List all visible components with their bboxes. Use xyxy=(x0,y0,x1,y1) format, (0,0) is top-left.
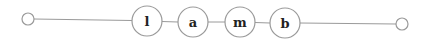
chain-diagram: l a m b xyxy=(0,0,432,41)
node-label: a xyxy=(189,15,198,30)
connector-m-b xyxy=(255,23,270,24)
start-terminal xyxy=(22,13,34,25)
node-b: b xyxy=(270,8,300,38)
connector-b-end xyxy=(300,23,396,24)
node-a: a xyxy=(178,7,208,37)
node-label: m xyxy=(233,15,247,30)
node-label: l xyxy=(145,14,150,29)
connector-l-a xyxy=(162,22,178,23)
node-l: l xyxy=(132,6,162,36)
connector-start-l xyxy=(34,19,132,21)
end-terminal xyxy=(396,18,408,30)
node-m: m xyxy=(225,7,255,37)
node-label: b xyxy=(280,16,289,31)
